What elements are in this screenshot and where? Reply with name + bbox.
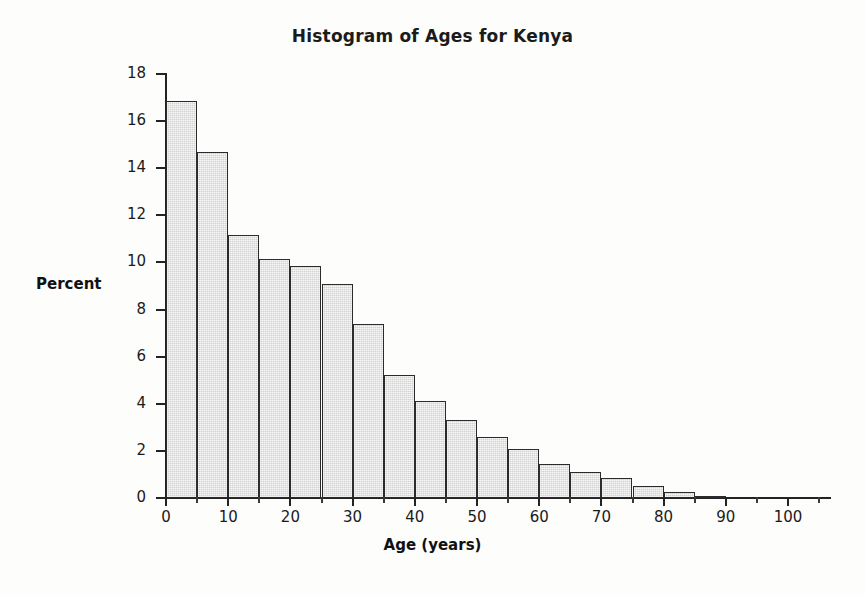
histogram-bar	[197, 152, 228, 498]
x-axis-minor-tick	[569, 497, 571, 503]
histogram-figure: Histogram of Ages for Kenya 024681012141…	[0, 0, 865, 597]
x-axis-tick	[725, 497, 727, 506]
histogram-bar	[166, 101, 197, 498]
x-axis-tick	[538, 497, 540, 506]
y-axis-label: Percent	[36, 275, 101, 293]
histogram-bar	[415, 401, 446, 498]
x-axis-tick	[663, 497, 665, 506]
y-axis-tick-label: 2	[112, 441, 146, 459]
x-axis-minor-tick	[196, 497, 198, 503]
x-axis-minor-tick	[383, 497, 385, 503]
histogram-bar	[384, 375, 415, 498]
x-axis-tick-label: 60	[516, 508, 562, 526]
y-axis-tick-label: 18	[112, 64, 146, 82]
histogram-bar	[539, 464, 570, 498]
x-axis-tick-label: 0	[143, 508, 189, 526]
y-axis-tick	[156, 450, 166, 452]
x-axis-minor-tick	[632, 497, 634, 503]
x-axis-tick	[289, 497, 291, 506]
x-axis-tick	[227, 497, 229, 506]
x-axis-tick-label: 80	[641, 508, 687, 526]
x-axis-minor-tick	[694, 497, 696, 503]
x-axis-tick	[165, 497, 167, 506]
x-axis-tick-label: 90	[703, 508, 749, 526]
histogram-bar	[601, 478, 632, 498]
x-axis-tick-label: 10	[205, 508, 251, 526]
x-axis-minor-tick	[818, 497, 820, 503]
x-axis-minor-tick	[258, 497, 260, 503]
y-axis-tick	[156, 261, 166, 263]
y-axis-tick-label: 4	[112, 394, 146, 412]
histogram-bar	[353, 324, 384, 498]
histogram-bar	[322, 284, 353, 498]
x-axis-tick	[414, 497, 416, 506]
histogram-bar	[290, 266, 321, 498]
y-axis-tick-label: 10	[112, 252, 146, 270]
y-axis-tick	[156, 73, 166, 75]
histogram-bar	[259, 259, 290, 498]
y-axis-tick	[156, 403, 166, 405]
y-axis-tick	[156, 214, 166, 216]
x-axis-minor-tick	[507, 497, 509, 503]
y-axis-tick	[156, 356, 166, 358]
x-axis-tick	[352, 497, 354, 506]
histogram-bar	[508, 449, 539, 498]
y-axis-tick-label: 16	[112, 111, 146, 129]
y-axis-tick-label: 12	[112, 205, 146, 223]
x-axis-tick-label: 30	[330, 508, 376, 526]
histogram-bar	[446, 420, 477, 498]
histogram-bar	[477, 437, 508, 498]
histogram-bar	[633, 486, 664, 498]
x-axis-label: Age (years)	[0, 536, 865, 554]
x-axis-minor-tick	[321, 497, 323, 503]
x-axis-tick	[476, 497, 478, 506]
plot-area: 024681012141618 0102030405060708090100	[0, 0, 865, 597]
histogram-bar	[664, 492, 695, 498]
x-axis-minor-tick	[445, 497, 447, 503]
y-axis-tick-label: 6	[112, 347, 146, 365]
y-axis-tick	[156, 309, 166, 311]
y-axis-tick-label: 0	[112, 488, 146, 506]
x-axis-tick	[787, 497, 789, 506]
y-axis-tick-label: 8	[112, 300, 146, 318]
y-axis-tick	[156, 120, 166, 122]
x-axis-tick-label: 100	[765, 508, 811, 526]
histogram-bar	[695, 496, 726, 498]
x-axis-tick-label: 40	[392, 508, 438, 526]
x-axis-tick-label: 20	[267, 508, 313, 526]
y-axis-tick-label: 14	[112, 158, 146, 176]
x-axis-minor-tick	[756, 497, 758, 503]
x-axis-tick-label: 50	[454, 508, 500, 526]
x-axis-tick	[600, 497, 602, 506]
histogram-bar	[228, 235, 259, 498]
y-axis-tick	[156, 167, 166, 169]
x-axis-tick-label: 70	[578, 508, 624, 526]
histogram-bar	[570, 472, 601, 498]
